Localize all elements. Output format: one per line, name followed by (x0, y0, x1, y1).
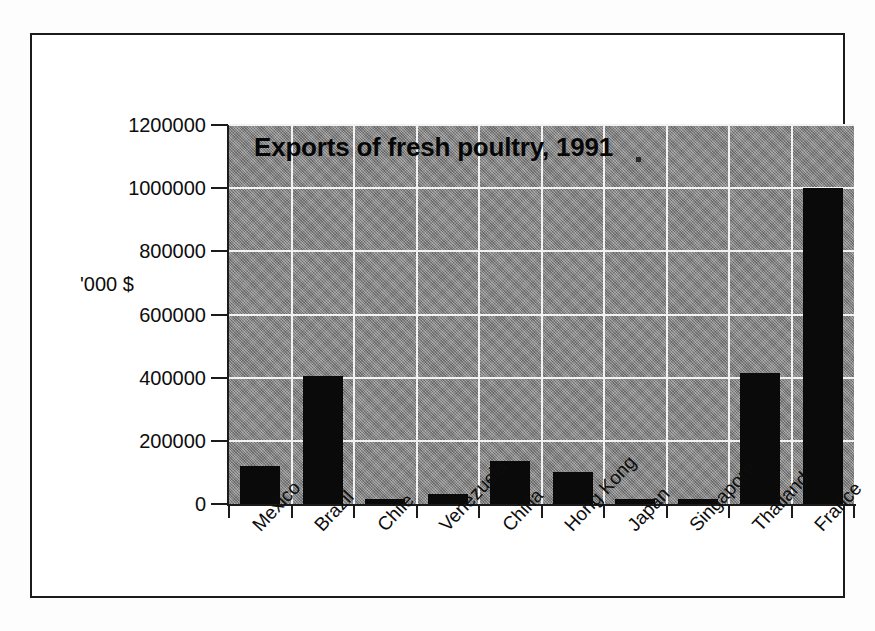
y-tick-label-600000: 600000 (139, 305, 206, 325)
chart-title: Exports of fresh poultry, 1991 (254, 132, 613, 163)
x-tick-8 (728, 505, 730, 518)
y-tick-label-0: 0 (195, 494, 206, 514)
x-tick-0 (228, 505, 230, 518)
y-tick-0 (211, 503, 228, 505)
x-tick-10 (853, 505, 855, 518)
bar-series (229, 125, 854, 504)
figure-root: 020000040000060000080000010000001200000 … (0, 0, 875, 631)
y-tick-label-800000: 800000 (139, 241, 206, 261)
y-tick-200000 (211, 440, 228, 442)
y-axis-tick-labels: 020000040000060000080000010000001200000 (32, 35, 206, 596)
x-tick-4 (478, 505, 480, 518)
y-tick-800000 (211, 250, 228, 252)
figure-border: 020000040000060000080000010000001200000 … (30, 33, 845, 598)
y-tick-1000000 (211, 187, 228, 189)
y-tick-1200000 (211, 124, 228, 126)
bar-brazil (303, 376, 343, 504)
y-tick-label-1200000: 1200000 (128, 115, 206, 135)
x-tick-2 (353, 505, 355, 518)
y-tick-600000 (211, 314, 228, 316)
plot-area (229, 125, 854, 504)
x-tick-6 (603, 505, 605, 518)
y-tick-label-200000: 200000 (139, 431, 206, 451)
y-tick-label-400000: 400000 (139, 368, 206, 388)
title-trailing-dot (636, 157, 641, 162)
y-tick-400000 (211, 377, 228, 379)
bar-france (803, 188, 843, 504)
y-axis-title: '000 $ (80, 273, 134, 296)
y-tick-label-1000000: 1000000 (128, 178, 206, 198)
